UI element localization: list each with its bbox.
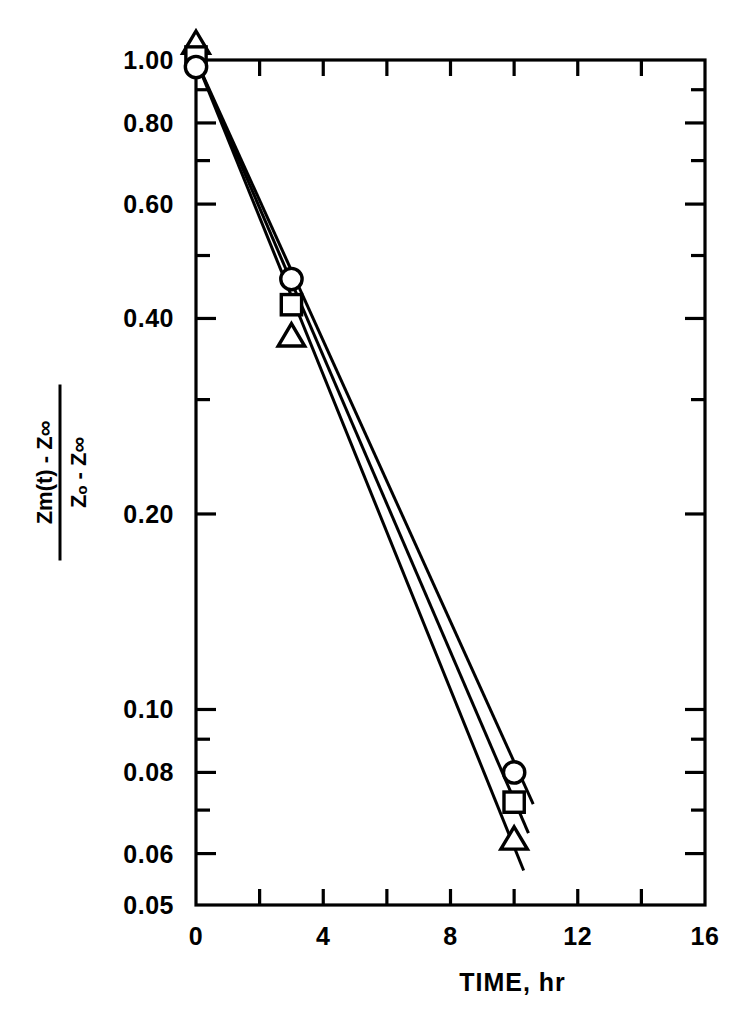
data-point-square [281,295,301,315]
chart-figure: 04812160.050.060.080.100.200.400.600.801… [0,0,754,1009]
fit-line-triangle [196,60,524,871]
y-tick-label: 0.05 [123,891,174,919]
plot-frame [196,60,705,905]
y-tick-label: 0.20 [123,500,174,528]
y-axis-title-numerator: Zm(t) - Z∞ [32,421,57,525]
x-tick-label: 0 [189,922,203,950]
y-tick-label: 0.60 [123,190,174,218]
x-tick-label: 12 [563,922,592,950]
x-tick-label: 16 [691,922,720,950]
data-point-circle [281,268,302,289]
fit-line-square [196,60,528,833]
y-tick-label: 1.00 [123,46,174,74]
semilog-plot: 04812160.050.060.080.100.200.400.600.801… [0,0,754,1009]
y-tick-label: 0.80 [123,109,174,137]
x-tick-label: 8 [443,922,457,950]
y-tick-label: 0.06 [123,840,174,868]
data-point-triangle [501,827,528,849]
data-point-circle [185,56,206,77]
y-axis-title-denominator: Zₒ - Z∞ [66,437,91,508]
y-tick-label: 0.10 [123,695,174,723]
y-tick-label: 0.40 [123,304,174,332]
data-point-triangle [278,324,305,346]
y-axis-title: Zm(t) - Z∞Zₒ - Z∞ [32,385,91,561]
data-point-circle [503,762,524,783]
data-point-square [504,792,524,812]
fit-line-circle [196,60,533,804]
y-tick-label: 0.08 [123,758,174,786]
x-tick-label: 4 [316,922,330,950]
x-axis-title: TIME, hr [459,968,566,996]
